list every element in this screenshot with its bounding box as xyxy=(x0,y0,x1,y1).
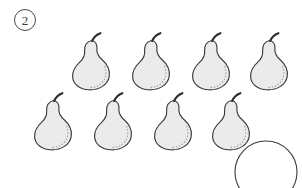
pear-icon xyxy=(88,90,140,152)
pear-icon xyxy=(244,30,296,92)
empty-answer-circle[interactable] xyxy=(234,140,298,188)
pear-icon xyxy=(28,90,80,152)
pear-icon xyxy=(148,90,200,152)
pear-icon xyxy=(66,30,118,92)
pear-icon xyxy=(126,30,178,92)
worksheet-page: 2 xyxy=(0,0,302,188)
pear-icon xyxy=(186,30,238,92)
item-number-badge: 2 xyxy=(14,9,36,31)
item-number-label: 2 xyxy=(22,14,29,27)
